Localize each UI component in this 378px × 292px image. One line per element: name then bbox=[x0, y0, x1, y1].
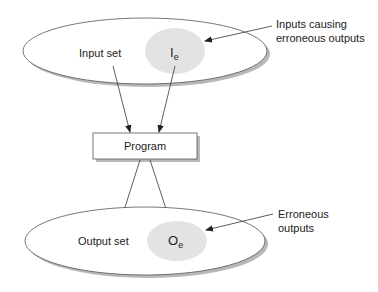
outputs-callout-line2: outputs bbox=[278, 222, 315, 234]
output-set-label: Output set bbox=[78, 235, 129, 247]
program-label: Program bbox=[124, 140, 166, 152]
inputs-callout-line1: Inputs causing bbox=[276, 18, 347, 30]
input-output-program-diagram: Input set Ie Program Output set Oe Input… bbox=[0, 0, 378, 292]
input-set-label: Input set bbox=[79, 47, 121, 59]
inputs-callout-line2: erroneous outputs bbox=[276, 32, 365, 44]
outputs-callout-line1: Erroneous bbox=[278, 208, 329, 220]
output-set-ellipse bbox=[25, 207, 268, 278]
